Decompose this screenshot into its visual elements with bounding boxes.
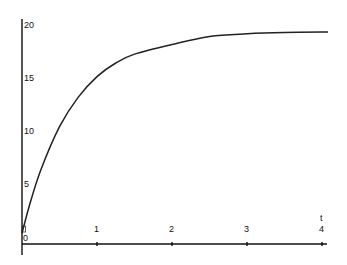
x-tick-label-4: 4 bbox=[319, 224, 324, 234]
y-tick-label-20: 20 bbox=[24, 20, 34, 30]
x-tick-label-2: 2 bbox=[169, 224, 174, 234]
x-axis-variable-label: t bbox=[320, 213, 323, 223]
data-curve bbox=[22, 32, 328, 233]
x-tick-label-3: 3 bbox=[244, 224, 249, 234]
x-tick-label-1: 1 bbox=[94, 224, 99, 234]
y-tick-label-15: 15 bbox=[24, 73, 34, 83]
y-tick-label-5: 5 bbox=[24, 179, 29, 189]
origin-label: 0 bbox=[23, 233, 28, 243]
chart-plot: 20 15 10 5 0 1 2 3 4 t bbox=[0, 0, 347, 265]
y-tick-label-10: 10 bbox=[24, 126, 34, 136]
